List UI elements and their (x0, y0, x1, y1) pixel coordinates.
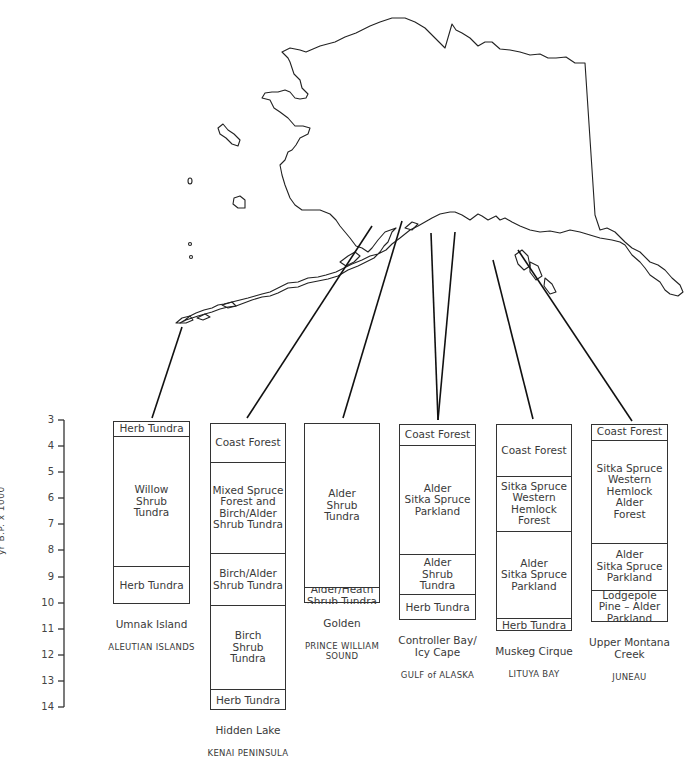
tick-11: 11 (14, 624, 54, 634)
vegetation-zone: Coast Forest (497, 425, 571, 477)
connector-muskeg (493, 260, 533, 419)
connector-golden (343, 221, 402, 418)
region-name: LITUYA BAY (481, 669, 587, 679)
site-name: Hidden Lake (195, 724, 301, 736)
site-column: Coast ForestSitka Spruce Western Hemlock… (591, 424, 668, 622)
tick-8: 8 (14, 545, 54, 555)
y-axis-title: yr B.P. x 1000 (0, 486, 6, 555)
region-name: KENAI PENINSULA (195, 748, 301, 758)
connector-controller-left (431, 233, 438, 420)
vegetation-zone: Alder Shrub Tundra (400, 555, 475, 594)
connector-hidden-lake (247, 226, 372, 418)
site-name: Upper Montana Creek (576, 636, 683, 660)
connector-lines (152, 221, 632, 421)
tick-13: 13 (14, 676, 54, 686)
site-name: Golden (289, 617, 395, 629)
y-axis-labels: 3 4 5 6 7 8 9 10 11 12 13 14 yr B.P. x 1… (0, 0, 100, 767)
vegetation-zone: Herb Tundra (497, 619, 571, 632)
connector-umnak (152, 327, 182, 418)
nunivak-island (233, 196, 245, 208)
tick-5: 5 (14, 467, 54, 477)
vegetation-zone: Coast Forest (400, 425, 475, 446)
region-name: JUNEAU (576, 672, 683, 682)
region-name: PRINCE WILLIAM SOUND (289, 641, 395, 661)
tick-6: 6 (14, 493, 54, 503)
vegetation-zone: Sitka Spruce Western Hemlock Alder Fores… (592, 441, 667, 544)
region-name: ALEUTIAN ISLANDS (98, 642, 205, 652)
vegetation-zone: Alder Shrub Tundra (305, 424, 379, 588)
vegetation-zone: Lodgepole Pine – Alder Parkland (592, 591, 667, 624)
connector-controller-right (438, 232, 455, 420)
tick-4: 4 (14, 441, 54, 451)
figure: 3 4 5 6 7 8 9 10 11 12 13 14 yr B.P. x 1… (0, 0, 690, 767)
region-name: GULF of ALASKA (384, 670, 491, 680)
tick-9: 9 (14, 572, 54, 582)
vegetation-zone: Alder Sitka Spruce Parkland (497, 532, 571, 619)
site-column: Alder Shrub TundraAlder/Heath Shrub Tund… (304, 423, 380, 603)
site-column: Coast ForestAlder Sitka Spruce ParklandA… (399, 424, 476, 620)
vegetation-zone: Coast Forest (592, 425, 667, 441)
vegetation-zone: Willow Shrub Tundra (114, 437, 189, 568)
vegetation-zone: Sitka Spruce Western Hemlock Forest (497, 477, 571, 532)
vegetation-zone: Herb Tundra (400, 595, 475, 621)
alaska-mainland-outline (180, 18, 683, 323)
tick-7: 7 (14, 519, 54, 529)
site-column: Herb TundraWillow Shrub TundraHerb Tundr… (113, 421, 190, 604)
vegetation-zone: Coast Forest (211, 424, 285, 463)
st-lawrence-island (218, 124, 240, 146)
site-column: Coast ForestMixed Spruce Forest and Birc… (210, 423, 286, 710)
vegetation-zone: Herb Tundra (114, 422, 189, 436)
vegetation-zone: Alder/Heath Shrub Tundra (305, 588, 379, 604)
tick-12: 12 (14, 650, 54, 660)
vegetation-zone: Herb Tundra (114, 567, 189, 605)
site-name: Muskeg Cirque (481, 645, 587, 657)
vegetation-zone: Mixed Spruce Forest and Birch/Alder Shru… (211, 463, 285, 554)
vegetation-zone: Herb Tundra (211, 690, 285, 711)
vegetation-zone: Birch Shrub Tundra (211, 606, 285, 690)
tick-3: 3 (14, 415, 54, 425)
vegetation-zone: Alder Sitka Spruce Parkland (592, 544, 667, 591)
vegetation-zone: Alder Sitka Spruce Parkland (400, 446, 475, 556)
connector-montana (518, 250, 632, 421)
tick-14: 14 (14, 702, 54, 712)
site-name: Umnak Island (98, 618, 205, 630)
site-column: Coast ForestSitka Spruce Western Hemlock… (496, 424, 572, 631)
site-name: Controller Bay/ Icy Cape (384, 634, 491, 658)
tick-10: 10 (14, 598, 54, 608)
vegetation-zone: Birch/Alder Shrub Tundra (211, 554, 285, 606)
